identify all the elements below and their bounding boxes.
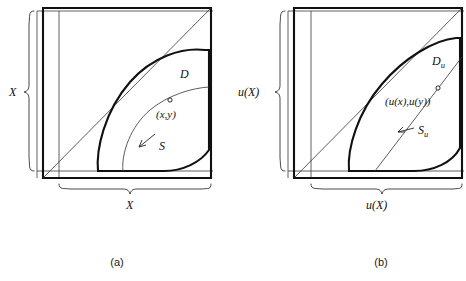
panel-a-point-label: (x,y) (156, 108, 176, 121)
panel-b-region-label: Du (431, 54, 445, 70)
panel-a-region-label: D (179, 67, 189, 81)
panel-a-left-brace (24, 11, 34, 171)
panel-b-curve-label-sub: u (424, 129, 428, 139)
panel-b-diagonal-line (294, 8, 462, 178)
panel-a-curve-S (123, 87, 209, 171)
panel-a: D (x,y) S X X (a) (8, 8, 213, 268)
panel-b-curve-label: Su (418, 123, 428, 139)
panel-b-left-brace (275, 11, 285, 171)
panel-b-point-label: (u(x),u(y)) (385, 95, 431, 108)
panel-b-region-label-sub: u (441, 60, 445, 70)
figure-root: D (x,y) S X X (a) (0, 0, 466, 281)
panel-b-bottom-brace-path (311, 184, 462, 194)
panel-b-bottom-brace (311, 184, 462, 194)
panel-a-caption: (a) (110, 256, 123, 268)
panel-a-curve-label: S (159, 139, 165, 153)
panel-a-left-brace-path (24, 11, 34, 171)
panel-a-bottom-brace-path (59, 184, 211, 194)
panel-b-bottom-axis-label: u(X) (366, 198, 387, 212)
panel-a-bottom-brace (59, 184, 211, 194)
panel-b-line-Su (375, 57, 462, 171)
panel-b-point-marker (436, 86, 440, 90)
panel-a-point-marker (168, 98, 172, 102)
panel-a-region-D-boundary (98, 49, 209, 171)
panel-b-left-brace-path (275, 11, 285, 171)
panel-b-left-axis-label: u(X) (238, 85, 259, 99)
panel-b-caption: (b) (374, 256, 387, 268)
panel-b-region-label-base: D (431, 54, 441, 68)
panel-a-diagonal-line (43, 8, 211, 178)
panel-b: Du (u(x),u(y)) Su u(X) u(X) (b) (238, 8, 464, 268)
panel-a-bottom-axis-label: X (125, 198, 134, 212)
panel-a-left-axis-label: X (8, 85, 17, 99)
